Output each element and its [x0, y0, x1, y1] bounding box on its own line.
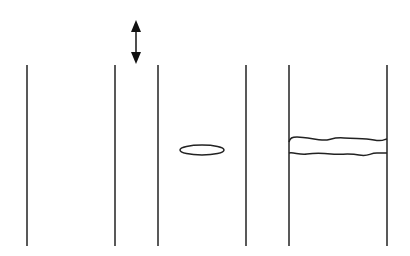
diagram-canvas — [0, 0, 410, 256]
ellipse-shape — [180, 145, 224, 155]
diagram-svg — [0, 0, 410, 256]
wavy-band-bottom-edge — [289, 153, 387, 156]
wavy-band-top-edge — [289, 137, 387, 142]
double-arrow-icon — [131, 20, 141, 64]
wavy-band — [289, 137, 387, 156]
